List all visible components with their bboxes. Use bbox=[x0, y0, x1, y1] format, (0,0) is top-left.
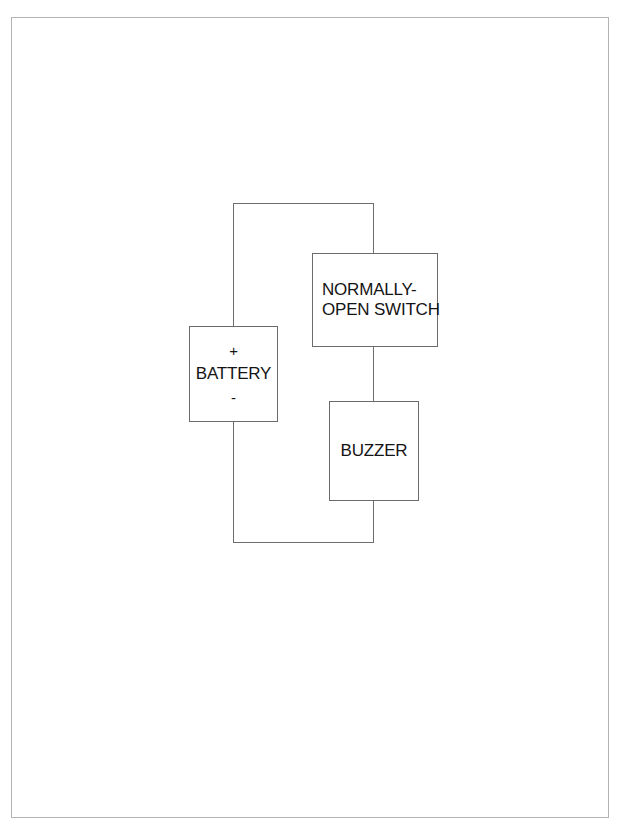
wire-switch-to-buzzer bbox=[373, 347, 374, 401]
wire-battery-positive-lead bbox=[233, 203, 234, 326]
component-buzzer: BUZZER bbox=[329, 401, 419, 501]
wire-battery-to-switch-top bbox=[233, 203, 374, 204]
component-normally-open-switch: NORMALLY- OPEN SWITCH bbox=[312, 253, 438, 347]
battery-positive-terminal-label: + bbox=[229, 343, 238, 358]
wire-switch-top-lead bbox=[373, 203, 374, 253]
switch-label-line-2: OPEN SWITCH bbox=[322, 300, 440, 320]
figure-caption bbox=[0, 827, 622, 835]
wire-buzzer-to-battery-bottom bbox=[233, 542, 374, 543]
switch-label-line-1: NORMALLY- bbox=[322, 280, 417, 300]
wire-buzzer-bottom-lead bbox=[373, 501, 374, 543]
wire-battery-negative-lead bbox=[233, 422, 234, 543]
battery-name-label: BATTERY bbox=[196, 364, 271, 384]
component-battery: + BATTERY - bbox=[189, 326, 278, 422]
figure-frame: + BATTERY - NORMALLY- OPEN SWITCH BUZZER bbox=[11, 17, 609, 818]
battery-negative-terminal-label: - bbox=[231, 390, 236, 405]
figure-page: + BATTERY - NORMALLY- OPEN SWITCH BUZZER bbox=[0, 0, 622, 835]
circuit-schematic: + BATTERY - NORMALLY- OPEN SWITCH BUZZER bbox=[12, 18, 610, 819]
buzzer-name-label: BUZZER bbox=[341, 441, 408, 461]
